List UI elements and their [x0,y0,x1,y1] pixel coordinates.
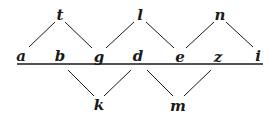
edge [147,70,173,96]
edge [186,22,214,48]
node-t: t [57,8,64,23]
edge [65,22,92,48]
node-e: e [175,50,185,65]
edge [68,70,94,96]
edge [184,70,211,96]
node-d: d [133,49,144,64]
node-z: z [214,50,223,65]
node-b: b [55,49,66,64]
node-m: m [170,99,186,114]
node-n: n [215,8,226,23]
node-a: a [16,49,26,64]
edge [146,22,174,48]
edge [29,22,55,47]
node-i: i [255,49,261,64]
node-l: l [137,8,143,23]
edge [226,22,253,47]
edge [106,22,134,48]
node-k: k [94,98,104,113]
node-g: g [94,50,105,65]
edge [104,70,131,96]
lattice-diagram: tlnabgdezikm [0,0,273,121]
